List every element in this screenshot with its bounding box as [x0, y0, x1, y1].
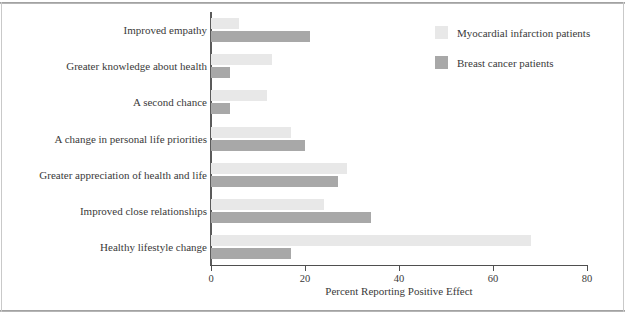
x-tick-label-60: 60: [488, 273, 499, 284]
category-label: Healthy lifestyle change: [7, 241, 207, 253]
x-tick-0: [211, 265, 212, 271]
legend-swatch-icon: [435, 26, 448, 39]
x-tick-20: [305, 265, 306, 271]
figure-right-edge: [623, 2, 624, 312]
plot-area: 020406080: [211, 12, 587, 265]
bar: [211, 54, 272, 65]
bar: [211, 140, 305, 151]
category-label: Improved close relationships: [7, 205, 207, 217]
legend-label: Myocardial infarction patients: [457, 27, 590, 39]
bar: [211, 18, 239, 29]
category-axis-labels: Improved empathyGreater knowledge about …: [4, 12, 207, 265]
category-label: Greater knowledge about health: [7, 60, 207, 72]
bar: [211, 176, 338, 187]
x-tick-60: [493, 265, 494, 271]
x-axis-title: Percent Reporting Positive Effect: [211, 285, 587, 297]
x-tick-label-40: 40: [394, 273, 405, 284]
x-tick-label-20: 20: [300, 273, 311, 284]
legend-label: Breast cancer patients: [457, 57, 554, 69]
x-tick-80: [587, 265, 588, 271]
x-tick-label-0: 0: [208, 273, 213, 284]
category-label: Greater appreciation of health and life: [7, 169, 207, 181]
figure-bottom-rule: [0, 310, 625, 312]
figure-container: Improved empathyGreater knowledge about …: [0, 0, 625, 321]
bar: [211, 235, 531, 246]
x-tick-40: [399, 265, 400, 271]
y-axis-line: [210, 12, 212, 265]
bar: [211, 31, 310, 42]
legend-swatch-icon: [435, 56, 448, 69]
category-label: A second chance: [7, 96, 207, 108]
legend-item: Breast cancer patients: [435, 56, 554, 69]
x-tick-label-80: 80: [582, 273, 593, 284]
figure-top-rule: [0, 2, 625, 4]
bar: [211, 127, 291, 138]
figure-left-edge: [1, 2, 2, 312]
category-label: A change in personal life priorities: [7, 133, 207, 145]
legend-item: Myocardial infarction patients: [435, 26, 590, 39]
bar: [211, 248, 291, 259]
bar: [211, 163, 347, 174]
bar: [211, 199, 324, 210]
bar: [211, 90, 267, 101]
category-label: Improved empathy: [7, 24, 207, 36]
bar: [211, 212, 371, 223]
bar: [211, 103, 230, 114]
bar: [211, 67, 230, 78]
